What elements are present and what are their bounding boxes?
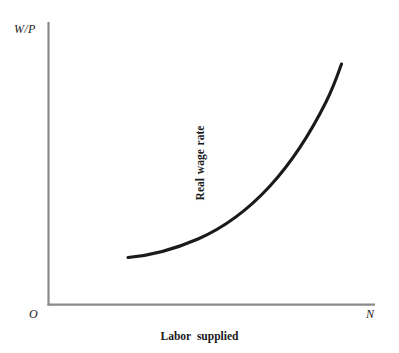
labor-supply-curve [128,64,342,258]
x-axis-title: Labor supplied [0,330,399,342]
x-axis-marker-label: N [366,307,374,322]
origin-marker-label: O [29,307,38,322]
chart-figure: W/P O N Labor supplied Real wage rate [0,0,399,353]
data-series-group [128,64,342,258]
y-axis-marker-label: W/P [14,22,36,37]
y-axis-title-text: Real wage rate [194,126,206,201]
axes-group [47,22,375,306]
